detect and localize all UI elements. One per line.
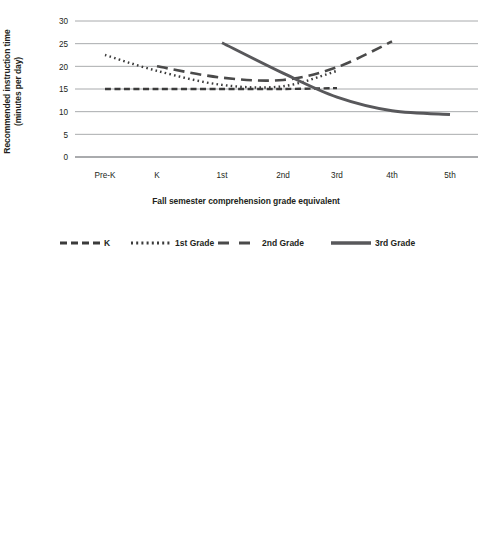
chart-comprehension: Recommended instruction time (minutes pe… — [0, 0, 492, 269]
legend-swatch-dotted — [131, 238, 171, 248]
x-tick-label: 2nd — [276, 171, 290, 180]
y-tick-label: 5 — [63, 131, 68, 140]
y-tick-label: 10 — [59, 108, 69, 117]
y-tick-label: 15 — [59, 85, 69, 94]
legend-swatch-short-dash — [60, 238, 100, 248]
x-tick-label: 4th — [386, 171, 398, 180]
x-tick-label: K — [154, 171, 160, 180]
y-tick-label: 30 — [59, 17, 69, 26]
legend-swatch-long-dash — [218, 238, 258, 248]
legend-item-1st-grade[interactable]: 1st Grade — [131, 234, 214, 252]
x-tick-label: Pre-K — [95, 171, 116, 180]
y-tick-label: 25 — [59, 40, 69, 49]
y-tick-label: 20 — [59, 63, 69, 72]
x-axis-title-comprehension: Fall semester comprehension grade equiva… — [0, 196, 492, 206]
legend-item-k[interactable]: K — [60, 234, 110, 252]
series-line-3rd-grade — [222, 43, 450, 115]
y-tick-label: 0 — [63, 153, 68, 162]
x-tick-label: 5th — [444, 171, 456, 180]
legend-comprehension: K1st Grade2nd Grade3rd Grade — [0, 234, 492, 252]
x-tick-label: 1st — [217, 171, 229, 180]
legend-swatch-solid — [331, 238, 371, 248]
figure-page: Recommended instruction time (minutes pe… — [0, 0, 492, 538]
x-tick-label: 3rd — [331, 171, 343, 180]
legend-label: 3rd Grade — [375, 238, 415, 248]
legend-label: 1st Grade — [175, 238, 214, 248]
chart-vocabulary: Recommended instruction time (minutes pe… — [0, 269, 492, 538]
series-line-2nd-grade — [157, 41, 392, 80]
legend-label: 2nd Grade — [262, 238, 304, 248]
plot-area-comprehension: 051015202530Pre-KK1st2nd3rd4th5th — [0, 0, 492, 190]
legend-label: K — [104, 238, 110, 248]
legend-item-3rd-grade[interactable]: 3rd Grade — [331, 234, 415, 252]
legend-item-2nd-grade[interactable]: 2nd Grade — [218, 234, 304, 252]
